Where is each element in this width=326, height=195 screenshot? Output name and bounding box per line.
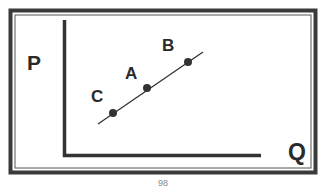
point-label-c: C [91,87,103,106]
point-label-a: A [125,64,137,83]
x-axis-label: Q [288,139,306,165]
point-label-b: B [162,36,174,55]
outer-frame [11,11,316,173]
diagram-canvas: P Q C A B 98 [0,0,326,195]
point-b [184,58,192,66]
point-a [143,84,151,92]
page-number: 98 [158,178,168,188]
y-axis-label: P [27,51,41,74]
point-c [109,109,117,117]
